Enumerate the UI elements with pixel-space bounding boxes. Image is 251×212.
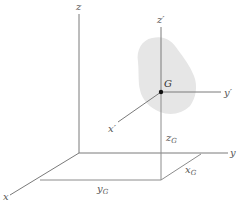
centroid-point [159,90,163,94]
centroid-label: G [164,78,172,89]
x-prime-axis-label: x′ [108,123,117,134]
x-g-label: xG [185,164,197,177]
z-prime-axis-label: z′ [156,14,165,25]
centroid-coordinate-diagram: z y x z′ y′ x′ G zG xG yG [0,0,251,212]
y-axis-label: y [229,147,236,158]
z-axis-label: z [75,1,82,12]
y-g-label: yG [96,183,109,196]
x-axis-label: x [3,191,9,202]
y-prime-axis-label: y′ [223,87,233,98]
x-axis [10,153,79,195]
z-g-label: zG [165,132,177,145]
